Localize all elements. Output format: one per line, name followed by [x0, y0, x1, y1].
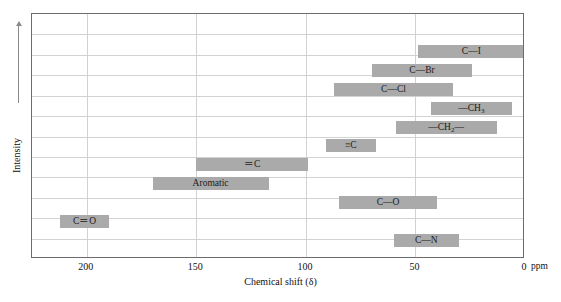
shift-range-bar: Aromatic: [153, 177, 269, 190]
shift-range-label: ＝C: [196, 158, 308, 171]
shift-range-label: C＝O: [60, 215, 108, 228]
intensity-axis-arrow-icon: [18, 25, 19, 103]
shift-range-label: Aromatic: [153, 177, 269, 190]
shift-range-label: C—I: [418, 45, 524, 58]
x-axis-tick-label: 150: [175, 261, 215, 272]
shift-range-bar: C＝O: [60, 215, 108, 228]
gridline-horizontal: [32, 137, 523, 138]
shift-range-label: —CH3: [431, 102, 512, 115]
x-axis-tick-label: 200: [66, 261, 106, 272]
shift-range-bar: C—O: [339, 196, 438, 209]
gridline-vertical: [415, 14, 416, 257]
gridline-horizontal: [32, 177, 523, 178]
shift-range-bar: C—N: [394, 234, 460, 247]
nmr-chemical-shift-chart: Intensity C—IC—BrC—Cl—CH3—CH2—≡C＝CAromat…: [0, 0, 561, 302]
shift-range-bar: C—I: [418, 45, 524, 58]
shift-range-bar: C—Cl: [334, 83, 452, 96]
y-axis-title: Intensity: [11, 108, 22, 204]
shift-range-bar: ＝C: [196, 158, 308, 171]
gridline-horizontal: [32, 34, 523, 35]
shift-range-label: ≡C: [326, 139, 376, 152]
shift-range-bar: —CH3: [431, 102, 512, 115]
shift-range-label: C—N: [394, 234, 460, 247]
gridline-horizontal: [32, 198, 523, 199]
ppm-unit-label: ppm: [531, 261, 548, 271]
shift-range-bar: ≡C: [326, 139, 376, 152]
x-axis-tick-label: 50: [394, 261, 434, 272]
gridline-horizontal: [32, 116, 523, 117]
shift-range-label: C—Br: [372, 64, 473, 77]
x-axis-tick-label: 100: [285, 261, 325, 272]
shift-range-bar: C—Br: [372, 64, 473, 77]
shift-range-bar: —CH2—: [396, 121, 497, 134]
shift-range-label: C—Cl: [334, 83, 452, 96]
plot-area: C—IC—BrC—Cl—CH3—CH2—≡C＝CAromaticC—OC＝OC—…: [31, 13, 524, 258]
shift-range-label: C—O: [339, 196, 438, 209]
x-axis-title: Chemical shift (δ): [0, 276, 561, 287]
shift-range-label: —CH2—: [396, 121, 497, 134]
gridline-vertical: [306, 14, 307, 257]
gridline-vertical: [196, 14, 197, 257]
